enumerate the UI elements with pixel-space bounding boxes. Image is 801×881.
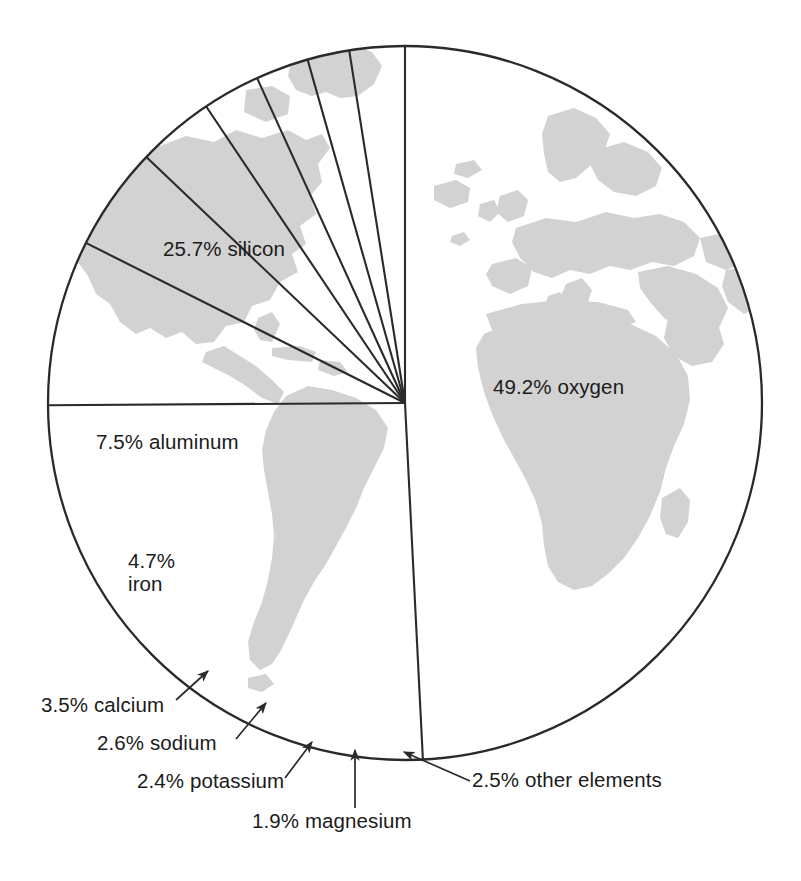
slice-label-iron: 4.7% iron bbox=[128, 550, 175, 596]
leader-line-potassium bbox=[285, 742, 312, 778]
slice-label-aluminum: 7.5% aluminum bbox=[96, 431, 239, 454]
alaska-shape bbox=[48, 222, 92, 252]
slice-label-iron-name: iron bbox=[128, 573, 175, 596]
slice-label-sodium: 2.6% sodium bbox=[97, 732, 217, 755]
arctic-islands-shape bbox=[198, 46, 262, 82]
slice-label-magnesium: 1.9% magnesium bbox=[252, 810, 412, 833]
chart-canvas: 25.7% silicon 49.2% oxygen 7.5% aluminum… bbox=[0, 0, 801, 881]
slice-label-calcium: 3.5% calcium bbox=[41, 694, 164, 717]
slice-label-potassium: 2.4% potassium bbox=[137, 770, 284, 793]
slice-label-other-elements: 2.5% other elements bbox=[472, 769, 662, 792]
slice-label-silicon: 25.7% silicon bbox=[163, 238, 285, 261]
slice-label-oxygen: 49.2% oxygen bbox=[493, 376, 624, 399]
slice-label-iron-percent: 4.7% bbox=[128, 550, 175, 573]
